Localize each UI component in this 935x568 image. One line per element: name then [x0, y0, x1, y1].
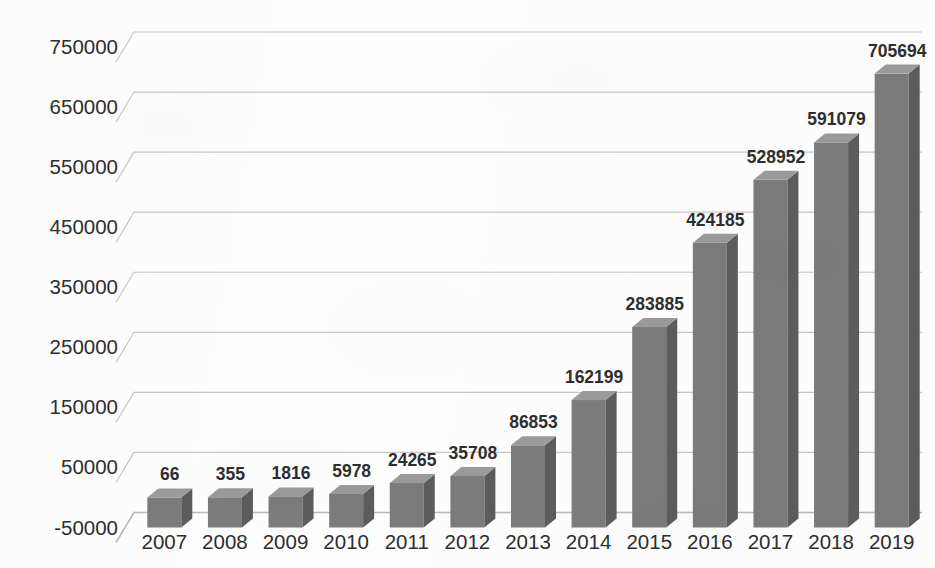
y-axis-tick-label: 150000 [50, 395, 118, 418]
bar-2018 [814, 133, 859, 527]
data-value-label: 5978 [332, 461, 371, 481]
gridline [116, 332, 922, 362]
bar-side-face [666, 318, 677, 528]
gridline [116, 32, 922, 62]
bar-side-face [424, 474, 435, 528]
y-axis-tick-label: 550000 [50, 155, 118, 178]
bar-2013 [511, 436, 556, 527]
gridline [116, 272, 922, 302]
bar-front-face [753, 180, 787, 528]
x-axis-tick-label: 2011 [385, 530, 429, 553]
x-axis-tick-label: 2008 [202, 530, 248, 553]
bar-2009 [269, 487, 314, 527]
bar-2011 [390, 474, 435, 528]
bar-2008 [208, 488, 253, 527]
gridline [116, 92, 922, 122]
data-value-label: 283885 [626, 294, 685, 314]
bar-front-face [875, 74, 909, 528]
data-value-label: 24265 [388, 450, 437, 470]
bar-front-face [693, 243, 727, 528]
bar-chart: 7500006500005500004500003500002500001500… [0, 0, 935, 568]
x-axis-tick-label: 2007 [142, 530, 188, 553]
bar-side-face [787, 171, 798, 528]
bar-front-face [147, 497, 181, 527]
bar-2010 [329, 485, 374, 528]
chart-page: 7500006500005500004500003500002500001500… [0, 0, 935, 568]
x-axis-tick-label: 2012 [445, 530, 491, 553]
x-axis-tick-labels: 2007200820092010201120122013201420152016… [142, 530, 915, 553]
y-axis-tick-label: 750000 [50, 35, 118, 58]
x-axis-tick-label: 2019 [869, 530, 915, 553]
bar-group [147, 65, 919, 528]
data-value-label: 355 [216, 464, 245, 484]
x-axis-tick-label: 2010 [323, 530, 369, 553]
y-axis-tick-labels: 7500006500005500004500003500002500001500… [50, 35, 118, 539]
bar-side-face [606, 391, 617, 527]
x-axis-tick-label: 2014 [566, 530, 612, 553]
bar-front-face [269, 496, 303, 527]
bar-front-face [450, 476, 484, 527]
data-value-label: 162199 [565, 367, 624, 387]
bar-2015 [632, 318, 677, 528]
bar-2007 [147, 488, 192, 527]
data-value-label: 528952 [747, 147, 806, 167]
data-value-label: 35708 [449, 443, 498, 463]
bar-front-face [511, 445, 545, 527]
bar-side-face [727, 234, 738, 528]
bar-front-face [208, 497, 242, 527]
bar-front-face [572, 400, 606, 527]
x-axis-tick-label: 2016 [687, 530, 733, 553]
bar-side-face [545, 436, 556, 527]
data-value-label: 1816 [272, 463, 311, 483]
x-axis-tick-label: 2015 [626, 530, 672, 553]
data-label-group: 6635518165978242653570886853162199283885… [160, 41, 927, 485]
data-value-label: 591079 [807, 109, 866, 129]
bar-side-face [848, 133, 859, 527]
bar-front-face [814, 142, 848, 527]
y-axis-tick-label: 50000 [61, 455, 118, 478]
y-axis-tick-label: 450000 [50, 215, 118, 238]
bar-2017 [753, 171, 798, 528]
x-axis-tick-label: 2017 [748, 530, 794, 553]
bar-2016 [693, 234, 738, 528]
data-value-label: 86853 [509, 412, 558, 432]
x-axis-tick-label: 2013 [505, 530, 551, 553]
y-axis-tick-label: -50000 [54, 516, 118, 539]
y-axis-tick-label: 250000 [50, 335, 118, 358]
bar-2012 [450, 467, 495, 527]
data-value-label: 705694 [868, 41, 927, 61]
x-axis-tick-label: 2018 [808, 530, 854, 553]
bar-side-face [909, 65, 920, 528]
bar-2014 [572, 391, 617, 527]
bar-front-face [632, 327, 666, 528]
gridline [116, 212, 922, 242]
bar-2019 [875, 65, 920, 528]
data-value-label: 66 [160, 464, 180, 484]
x-axis-tick-label: 2009 [263, 530, 309, 553]
y-axis-tick-label: 650000 [50, 95, 118, 118]
y-axis-tick-label: 350000 [50, 275, 118, 298]
bar-front-face [390, 483, 424, 528]
bar-side-face [484, 467, 495, 527]
data-value-label: 424185 [686, 210, 745, 230]
bar-front-face [329, 494, 363, 528]
